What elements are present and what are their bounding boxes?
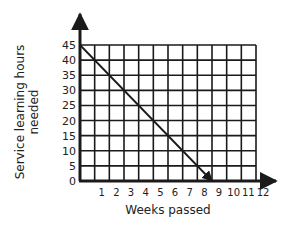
x-tick-label: 9 (216, 187, 222, 198)
data-line (80, 45, 212, 181)
x-tick-label: 6 (172, 187, 178, 198)
x-tick-label: 10 (227, 187, 240, 198)
x-tick-label: 8 (201, 187, 207, 198)
series-line (80, 45, 212, 181)
x-tick-labels: 123456789101112 (98, 187, 269, 198)
x-tick-label: 7 (186, 187, 192, 198)
y-tick-label: 5 (69, 160, 76, 173)
y-tick-label: 25 (62, 99, 76, 112)
x-tick-label: 1 (98, 187, 104, 198)
x-tick-label: 3 (128, 187, 134, 198)
grid (80, 45, 256, 181)
y-tick-labels: 051015202530354045 (62, 39, 76, 188)
y-axis-label-line2: needed (27, 90, 41, 135)
y-tick-label: 30 (62, 84, 76, 97)
y-tick-label: 45 (62, 39, 76, 52)
y-tick-label: 40 (62, 54, 76, 67)
y-tick-label: 0 (69, 175, 76, 188)
x-tick-label: 5 (157, 187, 163, 198)
y-axis-label-line1: Service learning hours (13, 45, 27, 180)
line-chart: 051015202530354045 123456789101112 Weeks… (0, 0, 294, 232)
x-tick-label: 12 (257, 187, 270, 198)
y-tick-label: 20 (62, 115, 76, 128)
y-tick-label: 10 (62, 145, 76, 158)
x-axis-label: Weeks passed (125, 203, 210, 217)
y-tick-label: 15 (62, 130, 76, 143)
x-tick-label: 11 (242, 187, 255, 198)
x-tick-label: 4 (142, 187, 148, 198)
x-tick-label: 2 (113, 187, 119, 198)
y-tick-label: 35 (62, 69, 76, 82)
